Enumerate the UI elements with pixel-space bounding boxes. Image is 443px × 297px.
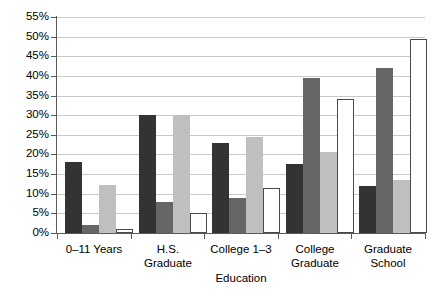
y-tick-label: 45%: [0, 50, 49, 62]
y-tick-label: 25%: [0, 129, 49, 141]
x-axis-label-line: 0–11 Years: [57, 243, 131, 257]
bar-group-bars: [212, 17, 280, 233]
x-axis-label-line: College 1–3: [204, 243, 278, 257]
y-tick-mark: [51, 154, 57, 155]
y-tick-label: 55%: [0, 11, 49, 23]
y-tick-mark: [51, 96, 57, 97]
y-tick-label: 10%: [0, 188, 49, 200]
y-tick-mark: [51, 135, 57, 136]
y-tick-mark: [51, 194, 57, 195]
y-tick-mark: [51, 37, 57, 38]
x-axis-label: H.S.Graduate: [131, 243, 205, 270]
x-axis-label-line: Graduate: [278, 257, 352, 271]
bar[interactable]: [212, 143, 229, 233]
y-tick-mark: [51, 56, 57, 57]
bar[interactable]: [286, 164, 303, 233]
bar[interactable]: [229, 198, 246, 233]
y-tick-mark: [51, 174, 57, 175]
x-axis-label: College 1–3: [204, 243, 278, 257]
x-axis-label-line: H.S.: [131, 243, 205, 257]
y-tick-label: 40%: [0, 70, 49, 82]
y-tick-label: 50%: [0, 31, 49, 43]
bar-group-bars: [65, 17, 133, 233]
x-axis-label: 0–11 Years: [57, 243, 131, 257]
bar[interactable]: [376, 68, 393, 233]
y-tick-label: 35%: [0, 90, 49, 102]
x-axis-title: Education: [57, 272, 425, 285]
bar[interactable]: [65, 162, 82, 233]
bar[interactable]: [82, 225, 99, 233]
bar-chart: 0%5%10%15%20%25%30%35%40%45%50%55% 0–11 …: [0, 0, 443, 297]
bar-group: [286, 17, 354, 233]
bar[interactable]: [320, 152, 337, 233]
bar[interactable]: [156, 202, 173, 233]
x-tick-mark: [204, 233, 205, 239]
y-tick-mark: [51, 76, 57, 77]
y-tick-label: 15%: [0, 168, 49, 180]
x-axis-label: CollegeGraduate: [278, 243, 352, 270]
y-tick-label: 20%: [0, 148, 49, 160]
bar-group: [212, 17, 280, 233]
y-tick-label: 0%: [0, 227, 49, 239]
bar[interactable]: [99, 185, 116, 233]
plot-area: [57, 17, 425, 233]
x-axis-line: [56, 233, 426, 234]
bar-group: [359, 17, 427, 233]
bar[interactable]: [263, 188, 280, 233]
bar[interactable]: [190, 213, 207, 233]
x-tick-mark: [351, 233, 352, 239]
bar-group: [139, 17, 207, 233]
y-tick-label: 30%: [0, 109, 49, 121]
y-tick-mark: [51, 17, 57, 18]
x-axis-label-line: Graduate: [351, 243, 425, 257]
x-axis-label-line: School: [351, 257, 425, 271]
bar[interactable]: [173, 115, 190, 233]
x-tick-mark: [425, 233, 426, 239]
x-tick-mark: [131, 233, 132, 239]
y-tick-label: 5%: [0, 207, 49, 219]
x-axis-label-line: Graduate: [131, 257, 205, 271]
bar-group: [65, 17, 133, 233]
bar[interactable]: [410, 39, 427, 233]
bar[interactable]: [246, 137, 263, 233]
bar-group-bars: [139, 17, 207, 233]
bar[interactable]: [303, 78, 320, 233]
bar-group-bars: [359, 17, 427, 233]
bar[interactable]: [393, 180, 410, 233]
bar-group-bars: [286, 17, 354, 233]
x-tick-mark: [57, 233, 58, 239]
bar[interactable]: [337, 99, 354, 233]
y-tick-mark: [51, 213, 57, 214]
y-tick-mark: [51, 115, 57, 116]
bar[interactable]: [359, 186, 376, 233]
x-axis-label: GraduateSchool: [351, 243, 425, 270]
x-axis-label-line: College: [278, 243, 352, 257]
x-tick-mark: [278, 233, 279, 239]
bar[interactable]: [139, 115, 156, 233]
